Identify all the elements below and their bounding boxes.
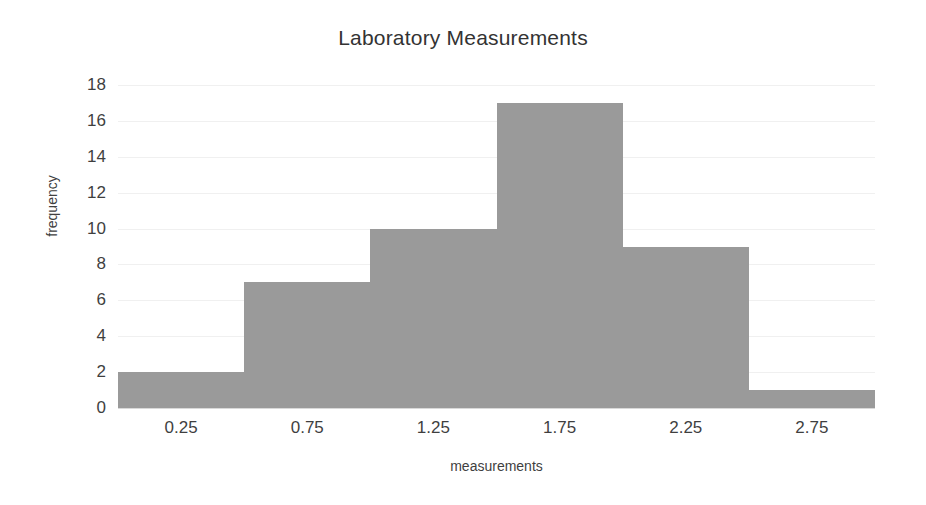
histogram-bar (370, 229, 496, 408)
y-axis-tick-label: 12 (74, 184, 106, 201)
y-axis-tick-label: 0 (74, 399, 106, 416)
y-axis-tick-label: 10 (74, 220, 106, 237)
histogram-bar (118, 372, 244, 408)
x-axis-line (118, 408, 875, 409)
y-axis-tick-label: 18 (74, 76, 106, 93)
histogram-bar (749, 390, 875, 408)
histogram-bar (623, 247, 749, 409)
x-axis-tick-label: 1.75 (520, 419, 600, 436)
x-axis-tick-label: 0.25 (141, 419, 221, 436)
chart-title: Laboratory Measurements (0, 26, 926, 50)
x-axis-tick-label: 2.75 (772, 419, 852, 436)
y-axis-tick-label: 6 (74, 291, 106, 308)
histogram-bar (244, 282, 370, 408)
histogram-bar (497, 103, 623, 408)
x-axis-tick-label: 2.25 (646, 419, 726, 436)
x-axis-label: measurements (118, 458, 875, 474)
y-axis-tick-label: 8 (74, 255, 106, 272)
x-axis-tick-label: 1.25 (393, 419, 473, 436)
histogram-chart: Laboratory Measurements 024681012141618 … (0, 0, 926, 505)
y-axis-tick-label: 14 (74, 148, 106, 165)
y-axis-tick-label: 4 (74, 327, 106, 344)
x-axis-tick-label: 0.75 (267, 419, 347, 436)
histogram-bars (118, 85, 875, 408)
y-axis-tick-label: 2 (74, 363, 106, 380)
y-axis-label: frequency (44, 146, 60, 266)
bars-svg (118, 85, 875, 408)
y-axis-tick-label: 16 (74, 112, 106, 129)
plot-area (118, 85, 875, 408)
